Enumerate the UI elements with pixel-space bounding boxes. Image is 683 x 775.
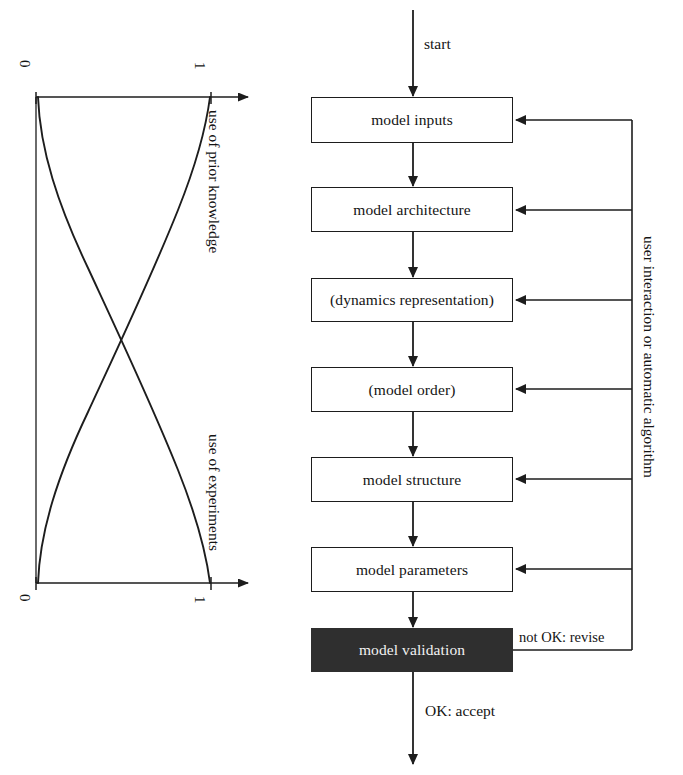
flowchart-box-label: model inputs (371, 111, 453, 129)
flowchart-box-label: (model order) (369, 381, 456, 399)
flowchart-start-label: start (424, 35, 451, 53)
flowchart-feedback-label: not OK: revise (519, 629, 604, 646)
flowchart-side-label: user interaction or automatic algorithm (640, 236, 658, 478)
flowchart-accept-label: OK: accept (425, 702, 495, 720)
flowchart-box-model-architecture[interactable]: model architecture (311, 187, 513, 232)
flowchart-box-dynamics-representation[interactable]: (dynamics representation) (311, 278, 513, 322)
flowchart-box-model-parameters[interactable]: model parameters (311, 547, 513, 592)
flowchart-box-model-order[interactable]: (model order) (311, 367, 513, 412)
flowchart-box-label: model architecture (353, 201, 471, 219)
figure-canvas: 0 1 0 1 use of prior knowledge use of ex… (0, 0, 683, 775)
flowchart-box-model-structure[interactable]: model structure (311, 457, 513, 502)
flowchart-box-label: model parameters (356, 561, 468, 579)
flowchart-box-model-inputs[interactable]: model inputs (311, 97, 513, 143)
flowchart-box-model-validation[interactable]: model validation (311, 628, 513, 672)
flowchart-box-label: model structure (363, 471, 461, 489)
flowchart-box-label: (dynamics representation) (330, 291, 494, 309)
flowchart-box-label: model validation (359, 641, 465, 659)
